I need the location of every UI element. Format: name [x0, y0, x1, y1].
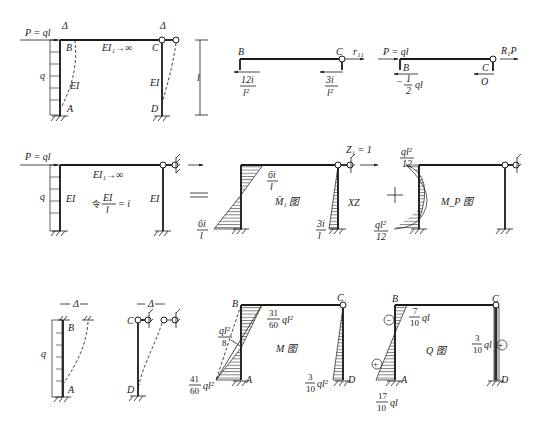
svg-text:q: q	[41, 348, 46, 359]
svg-text:ql: ql	[415, 79, 423, 90]
svg-text:ql: ql	[390, 397, 398, 408]
delta-label: Δ	[61, 20, 68, 31]
free-body-r11: B C r₁₁ 12i l² 3i l²	[234, 46, 364, 98]
svg-text:60: 60	[190, 386, 200, 396]
svg-text:Δ: Δ	[72, 298, 79, 309]
svg-text:l: l	[200, 230, 203, 241]
svg-text:10: 10	[377, 403, 387, 413]
svg-text:ql²: ql²	[317, 378, 329, 389]
svg-text:B: B	[392, 293, 398, 304]
positive-sign: +	[373, 359, 378, 369]
svg-text:q: q	[40, 191, 45, 202]
plus-sign	[387, 187, 403, 203]
svg-text:ql²: ql²	[219, 325, 231, 336]
svg-text:ql: ql	[422, 312, 430, 323]
svg-text:ql: ql	[484, 339, 492, 350]
svg-text:A: A	[400, 374, 408, 385]
node-B: B	[66, 42, 72, 53]
q-title: Q 图	[426, 345, 448, 356]
svg-text:A: A	[245, 374, 253, 385]
svg-text:EI₁→∞: EI₁→∞	[92, 169, 123, 180]
reaction-r11: r₁₁	[353, 46, 364, 57]
svg-text:EI: EI	[102, 192, 113, 203]
svg-text:D: D	[500, 374, 509, 385]
mp-title: M_P 图	[440, 196, 475, 207]
svg-text:l: l	[106, 204, 109, 215]
svg-text:C: C	[492, 293, 499, 304]
svg-text:B: B	[232, 298, 238, 309]
svg-text:EI: EI	[149, 193, 160, 204]
m-title: M 图	[275, 343, 299, 354]
svg-text:XZ: XZ	[347, 197, 360, 208]
deformed-left-column: Δ q B A	[41, 298, 94, 402]
svg-text:60: 60	[269, 320, 279, 330]
svg-text:2: 2	[406, 85, 411, 96]
positive-sign: +	[498, 340, 503, 350]
svg-text:6i: 6i	[198, 218, 206, 229]
svg-text:C: C	[337, 292, 344, 303]
svg-text:10: 10	[473, 345, 483, 355]
load-label: P = ql	[24, 27, 51, 38]
svg-text:P = ql: P = ql	[382, 46, 409, 57]
svg-text:EI: EI	[69, 80, 80, 91]
svg-text:12: 12	[376, 231, 386, 242]
svg-text:−: −	[396, 76, 403, 87]
svg-text:Δ: Δ	[159, 20, 166, 31]
svg-text:10: 10	[410, 318, 420, 328]
svg-text:C: C	[127, 315, 134, 326]
svg-text:3i: 3i	[325, 74, 334, 85]
svg-text:= i: = i	[118, 198, 130, 209]
m1-diagram: Z₁ = 1 6i l 6i l 3i l M̄₁ 图 XZ	[197, 144, 378, 241]
svg-text:O: O	[481, 76, 488, 87]
basic-structure: P = ql q EI₁→∞ EI EI 令 EI l = i	[20, 151, 203, 236]
svg-text:8: 8	[222, 338, 227, 348]
negative-sign: −	[386, 315, 391, 325]
svg-text:l: l	[318, 230, 321, 241]
svg-text:P = ql: P = ql	[24, 151, 51, 162]
svg-text:A: A	[67, 384, 75, 395]
svg-text:EI: EI	[65, 193, 76, 204]
svg-text:l²: l²	[327, 87, 334, 98]
svg-text:31: 31	[269, 308, 278, 318]
deformed-right-column: Δ C D	[126, 298, 180, 401]
svg-text:41: 41	[190, 374, 199, 384]
q-label: q	[40, 70, 45, 81]
mp-diagram: ql² 12 ql² 12 M_P 图	[374, 146, 521, 242]
svg-text:EI₁→∞: EI₁→∞	[101, 42, 132, 53]
m-diagram: B C A D 31 60 ql² ql² 8 41 60 ql² 3 10 q…	[189, 292, 356, 396]
svg-text:7: 7	[413, 306, 418, 316]
svg-text:ql²: ql²	[203, 380, 215, 391]
svg-text:ql²: ql²	[375, 219, 387, 230]
svg-text:3i: 3i	[316, 218, 325, 229]
svg-text:ql²: ql²	[282, 314, 294, 325]
svg-text:令: 令	[92, 199, 101, 209]
svg-text:3: 3	[475, 333, 480, 343]
node-C: C	[152, 42, 159, 53]
node-A: A	[66, 103, 74, 114]
original-frame: P = ql Δ q Δ B C A D EI₁→∞ EI EI	[20, 20, 208, 121]
svg-text:l²: l²	[243, 87, 250, 98]
svg-text:3: 3	[308, 372, 313, 382]
free-body-R1P: P = ql B C R₁P − 1 2 ql O	[378, 45, 518, 96]
unit-displacement-label: Z₁ = 1	[346, 144, 372, 155]
svg-text:B: B	[68, 322, 74, 333]
svg-text:1: 1	[406, 73, 411, 84]
structural-analysis-diagram: P = ql Δ q Δ B C A D EI₁→∞ EI EI	[0, 0, 545, 426]
svg-text:10: 10	[306, 384, 316, 394]
node-D: D	[150, 103, 159, 114]
svg-text:l: l	[270, 181, 273, 192]
reaction-R1P: R₁P	[500, 45, 517, 56]
svg-text:17: 17	[378, 391, 388, 401]
svg-text:12i: 12i	[241, 74, 254, 85]
q-diagram: B C A D − + + 7 10 ql 17 10 ql 3 10 ql Q…	[372, 293, 509, 413]
svg-text:6i: 6i	[268, 169, 276, 180]
svg-text:C: C	[482, 62, 489, 73]
svg-text:B: B	[238, 46, 244, 57]
m1-title: M̄₁ 图	[274, 196, 301, 207]
svg-text:ql²: ql²	[401, 146, 413, 157]
svg-text:D: D	[347, 374, 356, 385]
height-label: l	[197, 72, 200, 83]
svg-text:C: C	[336, 46, 343, 57]
svg-text:EI: EI	[149, 77, 160, 88]
svg-text:D: D	[126, 384, 135, 395]
